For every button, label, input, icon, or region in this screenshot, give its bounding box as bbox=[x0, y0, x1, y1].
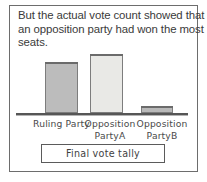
x-tick-label-line-2: PartyB bbox=[134, 130, 190, 142]
caption-label: Final vote tally bbox=[66, 148, 140, 159]
x-tick-label-line-1: Opposition bbox=[137, 118, 188, 129]
x-axis-line bbox=[16, 113, 188, 115]
bar-opposition-party-a bbox=[90, 54, 123, 113]
x-tick-label-line-2: PartyA bbox=[82, 130, 138, 142]
x-tick-label-line-1: Opposition bbox=[85, 118, 136, 129]
bar-top-edge bbox=[90, 54, 123, 56]
x-tick-label-opposition-party-a: Opposition PartyA bbox=[82, 118, 138, 141]
x-tick-label-opposition-party-b: Opposition PartyB bbox=[134, 118, 190, 141]
bar-top-edge bbox=[141, 106, 173, 108]
bar-ruling-party bbox=[45, 62, 78, 113]
bar-opposition-party-b bbox=[141, 106, 173, 113]
bar-top-edge bbox=[45, 62, 78, 64]
caption-box: Final vote tally bbox=[41, 144, 165, 163]
comic-panel: But the actual vote count showed that an… bbox=[0, 0, 207, 182]
